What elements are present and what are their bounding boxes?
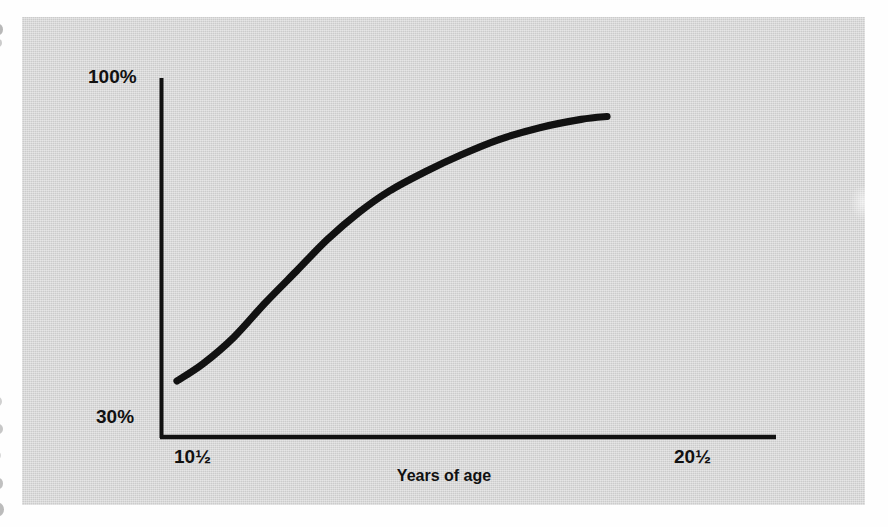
x-axis-tick-label-right: 20½ — [674, 446, 711, 468]
x-axis-tick-label-left: 10½ — [174, 446, 211, 468]
growth-curve-line — [177, 117, 607, 382]
x-axis-title: Years of age — [0, 467, 888, 485]
x-axis-title-text: Years of age — [397, 467, 491, 485]
document-page: 100% 30% 10½ 20½ Years of age — [0, 0, 888, 527]
y-axis-min-label: 30% — [96, 406, 134, 428]
y-axis-max-label: 100% — [88, 66, 137, 88]
